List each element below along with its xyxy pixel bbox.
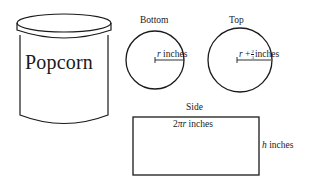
- height-unit: inches: [269, 140, 293, 150]
- radius-unit: inches: [255, 49, 279, 59]
- bottom-title: Bottom: [140, 16, 169, 26]
- fraction: 23: [251, 49, 254, 60]
- radius-unit: inches: [163, 49, 187, 59]
- height-variable: h: [262, 140, 267, 150]
- width-unit: inches: [189, 119, 213, 129]
- width-variable: r: [183, 119, 187, 129]
- can-lid-rim: [17, 23, 111, 38]
- top-circle: [208, 28, 272, 92]
- radius-variable: r: [157, 49, 161, 59]
- fraction-denominator: 3: [251, 55, 254, 60]
- bottom-radius-label: r inches: [157, 50, 187, 60]
- diagram-canvas: [0, 0, 312, 184]
- side-title: Side: [186, 103, 203, 113]
- top-title: Top: [229, 16, 244, 26]
- can-lid-top: [17, 14, 111, 32]
- bottom-circle: [126, 31, 184, 89]
- plus-sign: +: [245, 49, 250, 59]
- top-radius-label: r +23inches: [239, 49, 279, 60]
- can-label: Popcorn: [25, 52, 93, 72]
- radius-variable: r: [239, 49, 243, 59]
- can-body: [20, 35, 108, 124]
- side-height-label: h inches: [262, 141, 293, 151]
- side-width-label: 2πr inches: [173, 120, 213, 130]
